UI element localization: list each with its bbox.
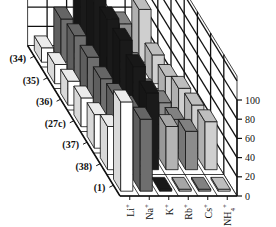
category-label: Cs+ <box>202 204 214 219</box>
bar-chart-3d: 020406080100 (34)(35)(36)(27c)(37)(38)(1… <box>0 0 276 227</box>
z-tick-label: 20 <box>245 171 255 182</box>
bar <box>159 115 178 170</box>
z-tick-label: 80 <box>245 114 255 125</box>
category-label: NH4+ <box>221 204 237 226</box>
bar <box>114 90 133 191</box>
series-label: (34) <box>10 53 27 65</box>
bar <box>178 119 197 169</box>
category-label: Na+ <box>143 204 155 220</box>
series-label: (35) <box>23 75 40 87</box>
series-label: (27c) <box>45 118 66 130</box>
bar <box>198 110 217 170</box>
z-tick-label: 100 <box>245 95 260 106</box>
z-tick-label: 0 <box>245 191 250 202</box>
series-label: (1) <box>94 182 106 194</box>
category-label: Li+ <box>124 204 136 217</box>
category-label: Rb+ <box>182 204 194 220</box>
category-axis-labels: Li+Na+K+Rb+Cs+NH4+ <box>124 196 238 226</box>
bar <box>133 107 152 191</box>
z-tick-label: 40 <box>245 152 255 163</box>
series-label: (37) <box>62 139 79 151</box>
series-label: (36) <box>36 96 53 108</box>
series-label: (38) <box>76 161 93 173</box>
category-label: K+ <box>163 204 175 215</box>
z-tick-label: 60 <box>245 133 255 144</box>
